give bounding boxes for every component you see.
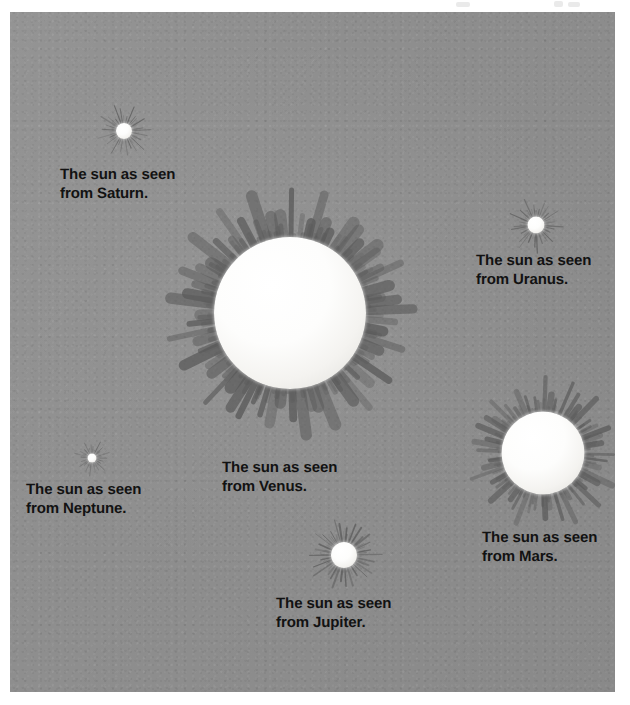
scan-artifact (456, 2, 470, 7)
sun-venus (167, 190, 413, 436)
sun-disc-jupiter (331, 542, 357, 568)
caption-neptune: The sun as seen from Neptune. (26, 481, 141, 519)
sun-disc-mars (502, 412, 585, 495)
sun-disc-neptune (88, 454, 97, 463)
illustration-page: The sun as seen from Saturn.The sun as s… (0, 0, 630, 705)
scan-artifact (554, 1, 563, 7)
sun-uranus (508, 197, 564, 253)
sun-disc-uranus (528, 217, 545, 234)
caption-venus: The sun as seen from Venus. (222, 459, 337, 497)
sun-saturn (97, 104, 151, 158)
sun-jupiter (306, 517, 382, 593)
illustration-plate: The sun as seen from Saturn.The sun as s… (10, 12, 615, 692)
caption-mars: The sun as seen from Mars. (482, 529, 597, 567)
sun-disc-venus (214, 237, 366, 389)
sun-disc-saturn (116, 123, 132, 139)
caption-uranus: The sun as seen from Uranus. (476, 252, 591, 290)
caption-saturn: The sun as seen from Saturn. (60, 166, 175, 204)
sun-neptune (74, 440, 110, 476)
caption-jupiter: The sun as seen from Jupiter. (276, 595, 391, 633)
scan-artifact (568, 2, 580, 7)
sun-mars (467, 377, 615, 529)
